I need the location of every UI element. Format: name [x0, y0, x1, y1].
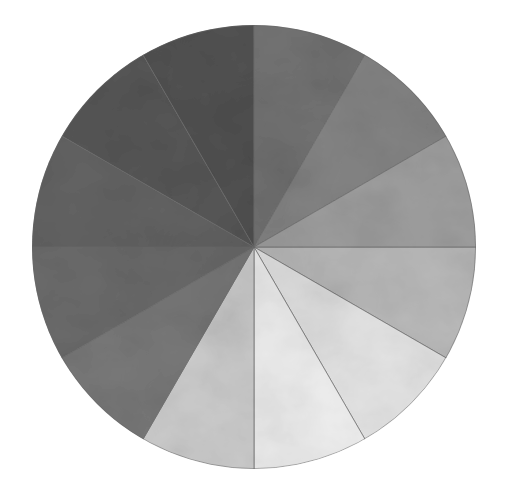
wedge-group: Wedge 1Wedge 2Wedge 3Wedge 4Wedge 5Wedge…: [28, 21, 481, 474]
wheel-body: Wedge 1Wedge 2Wedge 3Wedge 4Wedge 5Wedge…: [28, 21, 481, 474]
grayscale-value-wheel: Wedge 1Wedge 2Wedge 3Wedge 4Wedge 5Wedge…: [0, 0, 507, 495]
figure-canvas: Wedge 1Wedge 2Wedge 3Wedge 4Wedge 5Wedge…: [0, 0, 507, 495]
